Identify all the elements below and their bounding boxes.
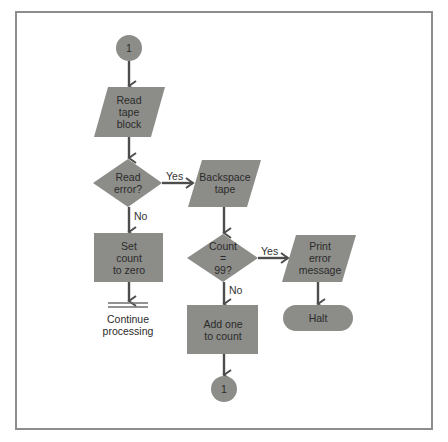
count-yes-label: Yes [261,245,278,257]
read-error-label: Read error? [98,171,158,195]
backspace-tape-label: Backspace tape [192,171,258,195]
continue-processing-label: Continue processing [98,313,158,337]
read-error-no-label: No [134,210,147,222]
count-no-label: No [229,284,242,296]
read-tape-block-label: Read tape block [99,94,159,130]
read-error-yes-label: Yes [166,170,183,182]
flowchart-canvas: 1 Read tape block Read error? Backspace … [0,0,448,442]
add-one-label: Add one to count [188,318,258,342]
start-connector-label: 1 [119,42,139,54]
end-connector-label: 1 [214,383,234,395]
print-error-label: Print error message [287,240,353,276]
count-99-label: Count = 99? [193,240,253,276]
halt-label: Halt [288,312,348,324]
flowchart-svg [0,0,448,442]
set-count-zero-label: Set count to zero [96,240,162,276]
continue-double-line [108,303,148,307]
